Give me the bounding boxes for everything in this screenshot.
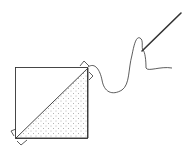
sewing-diagram [0,0,190,160]
needle [142,13,181,51]
thread [88,38,172,93]
